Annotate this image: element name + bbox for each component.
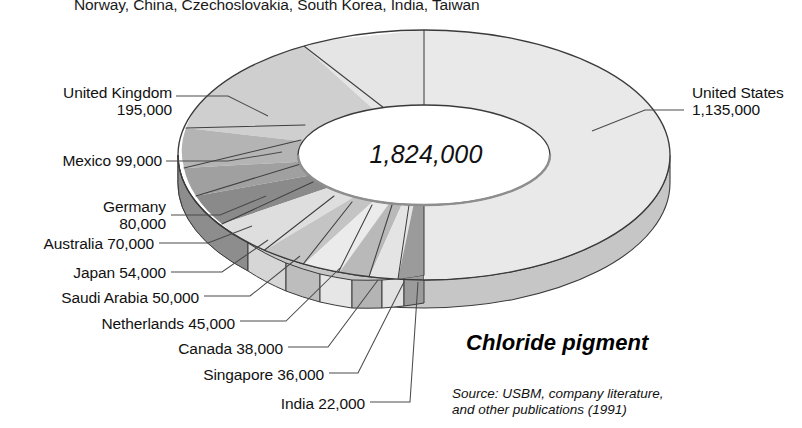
source-line-2: and other publications (1991) xyxy=(452,402,664,418)
label-japan: Japan 54,000 xyxy=(0,264,166,281)
label-united-kingdom-name: United Kingdom xyxy=(0,84,172,101)
label-netherlands: Netherlands 45,000 xyxy=(0,315,235,332)
label-india: India 22,000 xyxy=(0,395,365,412)
label-singapore: Singapore 36,000 xyxy=(0,366,324,383)
source-line-1: Source: USBM, company literature, xyxy=(452,386,664,402)
label-united-kingdom-value: 195,000 xyxy=(0,101,172,118)
label-canada: Canada 38,000 xyxy=(0,340,283,357)
label-united-states-name: United States xyxy=(692,84,784,101)
center-total-value: 1,824,000 xyxy=(300,140,552,169)
label-germany: Germany 80,000 xyxy=(0,198,166,232)
source-note: Source: USBM, company literature, and ot… xyxy=(452,386,664,418)
chart-canvas: Norway, China, Czechoslovakia, South Kor… xyxy=(0,0,802,428)
label-mexico: Mexico 99,000 xyxy=(0,152,162,169)
label-united-kingdom: United Kingdom 195,000 xyxy=(0,84,172,118)
label-saudi-arabia: Saudi Arabia 50,000 xyxy=(0,289,199,306)
label-germany-name: Germany xyxy=(0,198,166,215)
label-australia: Australia 70,000 xyxy=(0,235,154,252)
label-germany-value: 80,000 xyxy=(0,215,166,232)
chart-title: Chloride pigment xyxy=(466,330,649,356)
label-united-states: United States 1,135,000 xyxy=(692,84,784,118)
label-united-states-value: 1,135,000 xyxy=(692,101,784,118)
